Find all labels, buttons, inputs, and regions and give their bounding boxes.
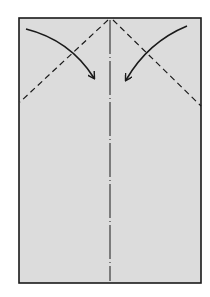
fold-diagram	[0, 0, 210, 297]
